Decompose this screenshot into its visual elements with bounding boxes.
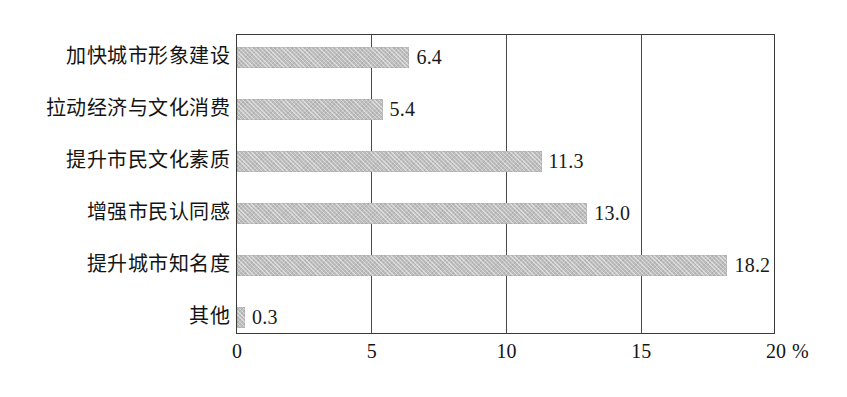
bar — [237, 47, 409, 68]
bar-row: 18.2 — [237, 255, 776, 276]
bar — [237, 203, 587, 224]
bar-value-label: 5.4 — [390, 98, 416, 121]
bar — [237, 151, 542, 172]
bar-value-label: 18.2 — [734, 254, 770, 277]
bar-value-label: 6.4 — [416, 46, 442, 69]
bar-value-label: 13.0 — [594, 202, 630, 225]
bar — [237, 255, 727, 276]
bar — [237, 307, 245, 328]
category-label: 拉动经济与文化消费 — [0, 95, 230, 122]
category-label: 其他 — [0, 303, 230, 330]
x-tick-label-0: 0 — [232, 340, 242, 363]
plot-area: 6.45.411.313.018.20.3 — [236, 34, 775, 334]
bar-value-label: 0.3 — [252, 306, 278, 329]
bar-value-label: 11.3 — [549, 150, 584, 173]
bar-row: 0.3 — [237, 307, 776, 328]
category-label: 增强市民认同感 — [0, 199, 230, 226]
bar-row: 5.4 — [237, 99, 776, 120]
category-label: 提升市民文化素质 — [0, 147, 230, 174]
bar-row: 6.4 — [237, 47, 776, 68]
category-label: 提升城市知名度 — [0, 251, 230, 278]
gridline-10 — [506, 35, 507, 333]
category-label: 加快城市形象建设 — [0, 43, 230, 70]
bar-row: 13.0 — [237, 203, 776, 224]
x-tick-label-20: 20 — [766, 340, 786, 363]
x-tick-label-5: 5 — [367, 340, 377, 363]
x-tick-label-15: 15 — [631, 340, 651, 363]
gridline-15 — [641, 35, 642, 333]
bar — [237, 99, 383, 120]
chart-page: 加快城市形象建设拉动经济与文化消费提升市民文化素质增强市民认同感提升城市知名度其… — [0, 0, 847, 397]
gridline-5 — [371, 35, 372, 333]
bar-row: 11.3 — [237, 151, 776, 172]
x-axis-unit-label: % — [792, 340, 809, 363]
x-tick-label-10: 10 — [497, 340, 517, 363]
